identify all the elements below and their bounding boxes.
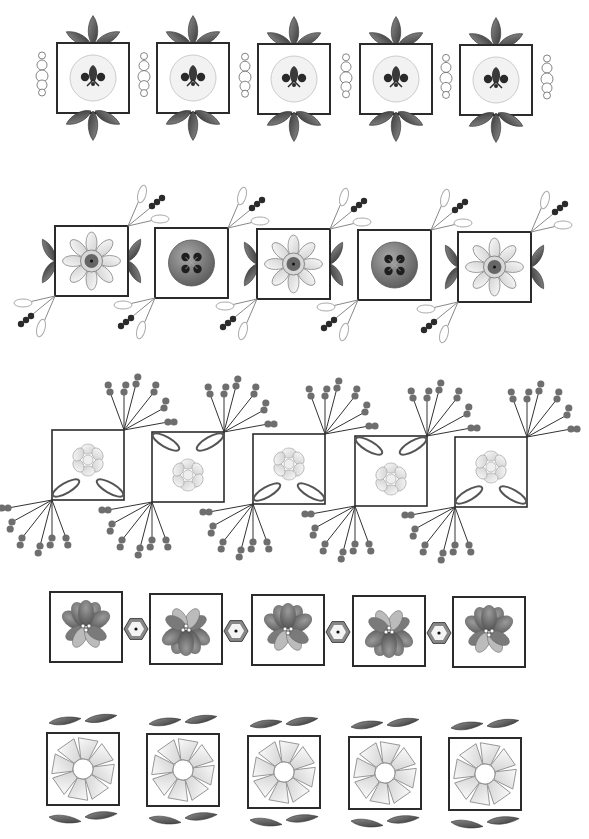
bead-icon (431, 319, 437, 325)
bead-icon (363, 401, 370, 408)
bead-icon (544, 55, 551, 62)
bead-icon (331, 317, 337, 323)
shell-cluster-icon (71, 444, 106, 476)
bead-icon (525, 388, 532, 395)
loop-icon (135, 320, 147, 339)
bead-icon (408, 387, 415, 394)
bead-icon (401, 511, 408, 518)
bead-icon (64, 541, 71, 548)
bead-icon (544, 92, 551, 99)
bead-icon (139, 81, 149, 91)
bead-icon (106, 388, 113, 395)
bead-icon (426, 323, 432, 329)
leaf-icon (391, 17, 400, 46)
bead-icon (37, 80, 47, 90)
loop-icon (252, 480, 283, 504)
bead-icon (338, 555, 345, 562)
loop-icon (338, 187, 350, 206)
tile-button (317, 188, 472, 341)
loop-icon (237, 321, 249, 340)
bead-stem-burst (508, 380, 581, 437)
bead-icon (341, 62, 351, 72)
bead-icon (219, 538, 226, 545)
bead-icon (120, 388, 127, 395)
row-flowers-hexagons (50, 592, 525, 667)
bead-icon (159, 195, 165, 201)
bead-icon (160, 404, 167, 411)
bead-icon (7, 525, 14, 532)
bead-icon (98, 506, 105, 513)
bead-stem-burst (301, 506, 374, 563)
shell-cluster-icon (272, 448, 307, 480)
bead-icon (443, 91, 450, 98)
bead-icon (356, 202, 362, 208)
bead-icon (437, 379, 444, 386)
tile (353, 596, 425, 666)
bead-icon (148, 536, 155, 543)
loop-icon (498, 483, 529, 507)
tile (98, 375, 277, 558)
bead-icon (37, 60, 47, 70)
bead-icon (39, 52, 46, 59)
loop-icon (95, 476, 126, 500)
four-hole-button-icon (372, 242, 418, 288)
bead-icon (552, 209, 558, 215)
tile (349, 716, 421, 829)
tile (147, 713, 219, 826)
bead-icon (8, 518, 15, 525)
loop-icon (51, 476, 82, 500)
bead-icon (411, 525, 418, 532)
bead-icon (220, 324, 226, 330)
loop-icon (554, 221, 572, 229)
bead-icon (563, 411, 570, 418)
loop-icon (438, 324, 450, 343)
bead-stem-burst (401, 507, 474, 564)
loop-bead-spray (216, 299, 257, 341)
bead-icon (250, 390, 257, 397)
tile (199, 377, 378, 560)
row-pinwheels (47, 712, 521, 830)
bead-icon (565, 404, 572, 411)
leaf-icon (88, 16, 97, 45)
bead-icon (141, 90, 148, 97)
leaf-icon (85, 810, 118, 820)
bead-icon (553, 395, 560, 402)
tile-daisy (14, 184, 169, 337)
bead-icon (141, 53, 148, 60)
leaf-icon (289, 17, 298, 46)
bead-icon (48, 534, 55, 541)
loop-icon (417, 305, 435, 313)
leaf-icon (486, 717, 519, 730)
bead-chain (36, 52, 48, 96)
loop-icon (398, 434, 429, 458)
bead-icon (453, 394, 460, 401)
tile (252, 595, 324, 665)
bead-stem-burst (199, 504, 272, 561)
bead-icon (557, 205, 563, 211)
bead-icon (321, 540, 328, 547)
loop-icon (338, 322, 350, 341)
bead-icon (132, 380, 139, 387)
bead-icon (509, 395, 516, 402)
bead-icon (351, 392, 358, 399)
bead-icon (371, 422, 378, 429)
tile (258, 17, 330, 142)
bead-icon (351, 540, 358, 547)
bead-icon (321, 325, 327, 331)
bead-icon (118, 323, 124, 329)
bead-stem-burst (205, 375, 278, 432)
leaf-icon (451, 818, 484, 830)
bead-chain (239, 53, 251, 97)
hexagon-bead-icon (124, 619, 148, 640)
bead-icon (150, 388, 157, 395)
bead-icon (262, 399, 269, 406)
bead-icon (230, 316, 236, 322)
loop-icon (296, 480, 327, 504)
bead-icon (343, 54, 350, 61)
leaf-icon (286, 813, 319, 823)
bead-icon (39, 89, 46, 96)
bead-icon (170, 418, 177, 425)
bead-icon (225, 320, 231, 326)
bead-icon (240, 81, 250, 91)
bead-icon (135, 551, 142, 558)
